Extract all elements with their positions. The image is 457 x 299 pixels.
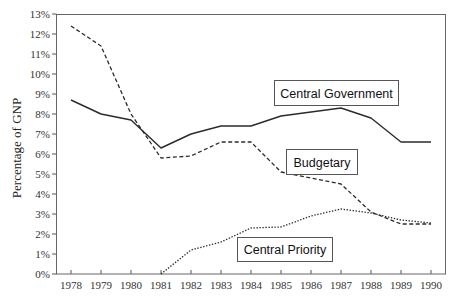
callout-budgetary: Budgetary — [287, 150, 358, 175]
y-tick-label: 13% — [30, 8, 50, 20]
y-axis-title: Percentage of GNP — [9, 98, 24, 198]
y-axis-ticks: 0%1%2%3%4%5%6%7%8%9%10%11%12%13% — [30, 8, 57, 280]
y-tick-label: 3% — [35, 208, 50, 220]
y-tick-label: 6% — [35, 148, 50, 160]
y-tick-label: 0% — [35, 268, 50, 280]
y-tick-label: 4% — [35, 188, 50, 200]
y-tick-label: 11% — [30, 48, 50, 60]
callout-label: Central Priority — [244, 243, 327, 257]
x-tick-label: 1984 — [240, 279, 263, 291]
y-axis-title-group: Percentage of GNP — [9, 98, 24, 198]
y-tick-label: 8% — [35, 108, 50, 120]
y-tick-label: 12% — [30, 28, 50, 40]
y-tick-label: 2% — [35, 228, 50, 240]
y-tick-label: 5% — [35, 168, 50, 180]
x-tick-label: 1986 — [300, 279, 323, 291]
series-line-central-government — [71, 100, 431, 148]
x-tick-label: 1979 — [90, 279, 113, 291]
x-tick-label: 1980 — [120, 279, 143, 291]
line-chart: Percentage of GNP 0%1%2%3%4%5%6%7%8%9%10… — [0, 0, 457, 299]
callout-central-priority: Central Priority — [238, 238, 333, 262]
x-tick-label: 1982 — [180, 279, 202, 291]
y-tick-label: 10% — [30, 68, 50, 80]
callout-central-government: Central Government — [275, 81, 399, 106]
x-tick-label: 1983 — [210, 279, 233, 291]
x-tick-label: 1989 — [390, 279, 413, 291]
x-tick-label: 1981 — [150, 279, 172, 291]
series-callouts: Central GovernmentBudgetaryCentral Prior… — [238, 81, 399, 262]
callout-label: Central Government — [280, 87, 393, 101]
x-axis-ticks: 1978197919801981198219831984198519861987… — [60, 270, 443, 291]
x-tick-label: 1988 — [360, 279, 383, 291]
x-tick-label: 1978 — [60, 279, 83, 291]
y-tick-label: 1% — [35, 248, 50, 260]
y-tick-label: 9% — [35, 88, 50, 100]
series-lines — [71, 26, 431, 274]
callout-label: Budgetary — [294, 156, 352, 170]
x-tick-label: 1990 — [420, 279, 443, 291]
plot-frame — [57, 15, 446, 275]
series-line-budgetary — [71, 26, 431, 224]
x-tick-label: 1987 — [330, 279, 353, 291]
y-tick-label: 7% — [35, 128, 50, 140]
x-tick-label: 1985 — [270, 279, 293, 291]
